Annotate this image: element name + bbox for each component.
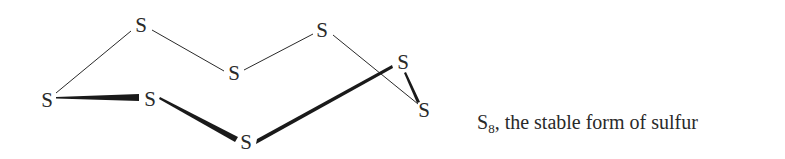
atom-s4: S	[41, 88, 53, 112]
caption: S8, the stable form of sulfur	[477, 111, 698, 137]
bond-s1-s3	[152, 30, 224, 71]
bond-s4-s5	[56, 94, 139, 101]
bond-s3-s2	[244, 34, 313, 70]
atom-s5: S	[144, 87, 156, 111]
atom-s8: S	[418, 98, 430, 122]
atoms: S S S S S S S S	[41, 13, 430, 154]
caption-symbol: S	[477, 111, 488, 133]
atom-s3: S	[228, 61, 240, 85]
atom-s6: S	[240, 130, 252, 154]
bond-s5-s6	[159, 97, 238, 142]
caption-text: , the stable form of sulfur	[495, 111, 698, 133]
atom-s2: S	[316, 18, 328, 42]
bond-s6-s7	[256, 65, 393, 144]
atom-s7: S	[397, 50, 409, 74]
atom-s1: S	[135, 13, 147, 37]
bond-s4-s1	[56, 31, 131, 93]
